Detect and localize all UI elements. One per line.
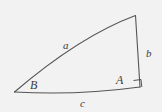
side-label-b: b bbox=[146, 48, 152, 59]
figure-panel: a b c A B bbox=[0, 0, 162, 112]
vertex-label-b: B bbox=[30, 79, 37, 91]
vertex-label-a: A bbox=[116, 74, 123, 86]
triangle-diagram bbox=[0, 0, 162, 112]
side-label-c: c bbox=[80, 98, 85, 109]
side-label-a: a bbox=[63, 40, 69, 51]
right-angle-marker-icon bbox=[134, 80, 142, 88]
side-b-path bbox=[136, 16, 141, 88]
